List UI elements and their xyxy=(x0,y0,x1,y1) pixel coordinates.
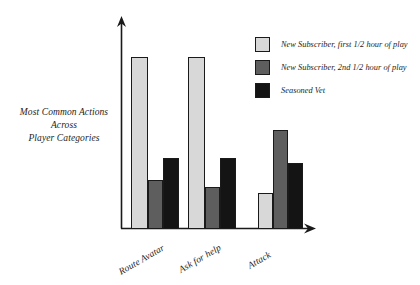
plot-area: Route Avatar Ask for help Attack New Sub… xyxy=(0,0,420,285)
legend-swatch-seasoned-vet xyxy=(255,83,270,98)
bar-ask-for-help-new-subscriber-first xyxy=(188,57,205,229)
legend-label-seasoned-vet: Seasoned Vet xyxy=(281,86,325,95)
bar-attack-seasoned-vet xyxy=(288,163,303,229)
bar-route-avatar-new-subscriber-first xyxy=(131,57,148,229)
bar-route-avatar-new-subscriber-second xyxy=(148,180,163,229)
legend-label-new-subscriber-first: New Subscriber, first 1/2 hour of play xyxy=(281,40,408,49)
bar-ask-for-help-new-subscriber-second xyxy=(205,187,220,229)
legend-label-new-subscriber-second: New Subscriber, 2nd 1/2 hour of play xyxy=(281,63,407,72)
chart-legend: New Subscriber, first 1/2 hour of play N… xyxy=(255,34,408,103)
legend-swatch-new-subscriber-first xyxy=(255,37,270,52)
legend-item-seasoned-vet: Seasoned Vet xyxy=(255,80,408,100)
legend-item-new-subscriber-second: New Subscriber, 2nd 1/2 hour of play xyxy=(255,57,408,77)
legend-swatch-new-subscriber-second xyxy=(255,60,270,75)
bar-attack-new-subscriber-second xyxy=(273,130,288,229)
bar-ask-for-help-seasoned-vet xyxy=(220,158,236,229)
chart-page: Most Common Actions Across Player Catego… xyxy=(0,0,420,285)
bar-attack-new-subscriber-first xyxy=(258,193,273,229)
legend-item-new-subscriber-first: New Subscriber, first 1/2 hour of play xyxy=(255,34,408,54)
bar-route-avatar-seasoned-vet xyxy=(163,158,179,229)
